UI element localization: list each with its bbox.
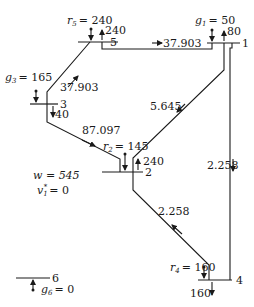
- bus-5: 5: [78, 36, 118, 49]
- svg-text:r4= 160: r4= 160: [170, 261, 215, 275]
- svg-text:5.645: 5.645: [150, 100, 182, 113]
- gen-5: r5= 240 240: [67, 14, 126, 40]
- svg-text:80: 80: [227, 25, 241, 38]
- svg-text:2.258: 2.258: [158, 205, 190, 218]
- bus-1: 1: [207, 37, 249, 50]
- svg-text:g6= 0: g6= 0: [41, 283, 74, 297]
- dual-value: v1*= 0: [37, 183, 69, 198]
- network-diagram: 5 1 3 2 4 6 37.903 37.903 87.097 5.645: [0, 0, 254, 307]
- svg-text:2.258: 2.258: [207, 159, 239, 172]
- svg-text:160: 160: [190, 287, 211, 300]
- gen-1: g1= 50 80: [195, 14, 241, 41]
- svg-text:240: 240: [143, 155, 164, 168]
- svg-text:1: 1: [242, 37, 249, 50]
- summary-block: w = 545 v1*= 0: [33, 169, 80, 198]
- svg-text:240: 240: [105, 24, 126, 37]
- line-1-4: 2.258: [207, 43, 239, 280]
- bus-4: 4: [198, 274, 243, 287]
- svg-text:37.903: 37.903: [60, 81, 99, 94]
- svg-text:87.097: 87.097: [82, 124, 121, 137]
- bus-6: 6: [16, 272, 59, 285]
- svg-text:5: 5: [110, 36, 117, 49]
- svg-text:r2= 145: r2= 145: [103, 140, 148, 154]
- svg-text:g3= 165: g3= 165: [5, 71, 52, 85]
- gen-3: g3= 165 40: [5, 71, 69, 121]
- line-3-5: 37.903: [47, 42, 99, 104]
- svg-text:37.903: 37.903: [163, 37, 202, 50]
- line-5-1: 37.903: [102, 37, 212, 50]
- svg-text:40: 40: [55, 108, 69, 121]
- objective-value: w = 545: [33, 169, 80, 182]
- svg-text:4: 4: [236, 274, 243, 287]
